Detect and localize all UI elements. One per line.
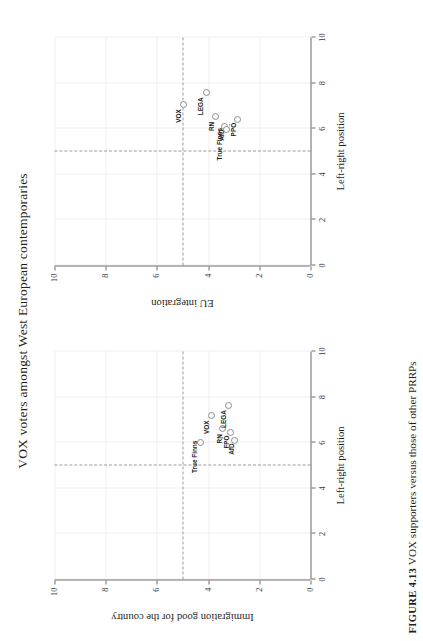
x-axis-tick: [311, 127, 315, 128]
data-point-label: VOX: [203, 420, 210, 434]
x-axis-tick: [311, 396, 315, 397]
data-point-label: True Finns: [215, 128, 222, 160]
y-axis-title: EU integration: [151, 298, 214, 309]
y-axis-tick-label: 8: [101, 587, 110, 591]
y-axis-tick: [310, 266, 311, 270]
data-point: [179, 100, 186, 107]
y-axis-tick-label: 6: [152, 587, 161, 591]
y-axis-title: Immigration good for the country: [111, 612, 253, 623]
data-point: [211, 112, 218, 119]
figure-container: VOX voters amongst West European contemp…: [0, 0, 423, 641]
data-point: [233, 115, 240, 122]
data-point: [225, 402, 232, 409]
x-axis-tick-label: 10: [317, 33, 326, 41]
reference-line-horizontal: [182, 351, 183, 579]
y-axis-tick: [208, 266, 209, 270]
x-axis-tick-label: 4: [317, 486, 326, 490]
y-axis-tick: [156, 266, 157, 270]
x-axis-tick: [311, 578, 315, 579]
x-axis-tick: [311, 487, 315, 488]
x-axis-tick: [311, 264, 315, 265]
y-axis-tick-label: 4: [203, 587, 212, 591]
plot-area-immigration: 02468100246810Left-right positionImmigra…: [54, 351, 310, 579]
x-axis-tick-label: 2: [317, 217, 326, 221]
x-axis-tick-label: 10: [317, 347, 326, 355]
y-axis-tick: [54, 580, 55, 584]
y-axis-tick-label: 0: [306, 587, 315, 591]
y-axis-tick-label: 2: [254, 587, 263, 591]
y-axis-tick-label: 8: [101, 273, 110, 277]
data-point-label: RN: [208, 121, 215, 130]
y-axis-tick: [105, 580, 106, 584]
x-axis-title: Left-right position: [334, 351, 345, 579]
chart-panel-immigration: 02468100246810Left-right positionImmigra…: [46, 335, 376, 635]
data-point: [202, 89, 209, 96]
data-point-label: VOX: [174, 109, 181, 123]
y-axis-tick-label: 10: [50, 273, 59, 281]
y-axis-line: [54, 265, 310, 266]
data-point: [226, 428, 233, 435]
y-axis-tick-label: 10: [50, 587, 59, 595]
x-axis-tick: [311, 36, 315, 37]
x-axis-tick-label: 6: [317, 440, 326, 444]
y-axis-tick: [105, 266, 106, 270]
data-point: [230, 436, 237, 443]
data-point-label: AfD: [227, 443, 234, 454]
y-axis-tick: [156, 580, 157, 584]
x-axis-tick: [311, 532, 315, 533]
x-axis-tick: [311, 350, 315, 351]
x-axis-tick-label: 4: [317, 172, 326, 176]
reference-line-horizontal: [182, 37, 183, 265]
x-axis-title: Left-right position: [334, 37, 345, 265]
data-point: [207, 411, 214, 418]
x-axis-tick-label: 0: [317, 577, 326, 581]
data-point-label: RN: [216, 434, 223, 443]
x-axis-tick-label: 6: [317, 126, 326, 130]
data-point-label: PPÖ: [229, 122, 236, 136]
plot-area-eu-integration: 02468100246810Left-right positionEU inte…: [54, 37, 310, 265]
figure-caption-text: VOX supporters versus those of other PRR…: [405, 361, 417, 565]
data-point-label: LEGA: [220, 410, 227, 428]
figure-title: VOX voters amongst West European contemp…: [14, 0, 30, 641]
y-axis-tick: [259, 266, 260, 270]
x-axis-tick-label: 2: [317, 531, 326, 535]
y-axis-tick: [310, 580, 311, 584]
x-axis-tick-label: 8: [317, 81, 326, 85]
x-axis-tick-label: 0: [317, 263, 326, 267]
x-axis-line: [310, 37, 311, 265]
y-axis-tick: [259, 580, 260, 584]
y-axis-line: [54, 579, 310, 580]
y-axis-tick-label: 2: [254, 273, 263, 277]
x-axis-tick: [311, 218, 315, 219]
figure-caption: FIGURE 4.13 VOX supporters versus those …: [405, 5, 417, 633]
x-axis-tick-label: 8: [317, 395, 326, 399]
y-axis-tick-label: 4: [203, 273, 212, 277]
x-axis-tick: [311, 82, 315, 83]
y-axis-tick-label: 0: [306, 273, 315, 277]
chart-panel-eu-integration: 02468100246810Left-right positionEU inte…: [46, 21, 376, 321]
y-axis-tick: [208, 580, 209, 584]
y-axis-tick-label: 6: [152, 273, 161, 277]
x-axis-tick: [311, 441, 315, 442]
x-axis-line: [310, 351, 311, 579]
data-point-label: True Finns: [191, 440, 198, 472]
y-axis-tick: [54, 266, 55, 270]
x-axis-tick: [311, 173, 315, 174]
data-point-label: LEGA: [197, 97, 204, 115]
data-point: [222, 125, 229, 132]
figure-caption-number: FIGURE 4.13: [406, 567, 417, 633]
